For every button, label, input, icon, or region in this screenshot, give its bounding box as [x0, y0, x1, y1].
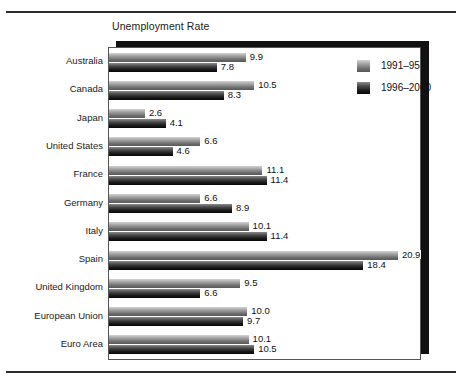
legend-entry-series2: 1996–2000 — [357, 80, 462, 97]
plot-area: 9.97.810.58.32.64.16.64.611.111.46.68.91… — [108, 47, 421, 360]
bar-series-1991-95 — [109, 279, 240, 288]
legend-swatch-1996-2000-icon — [357, 82, 370, 94]
bar-value-label: 4.1 — [169, 118, 184, 127]
category-label: Japan — [77, 113, 103, 123]
bar-series-1996-2000 — [109, 91, 224, 100]
bar-series-1991-95 — [109, 166, 262, 175]
bar-series-1996-2000 — [109, 204, 232, 213]
bar-series-1996-2000 — [109, 289, 200, 298]
category-label: Australia — [66, 56, 103, 66]
bar-series-1996-2000 — [109, 63, 217, 72]
category-label: Euro Area — [61, 339, 103, 349]
category-label: United States — [46, 141, 103, 151]
bar-value-label: 10.1 — [252, 334, 273, 343]
category-label: Canada — [70, 84, 103, 94]
bar-series-1996-2000 — [109, 176, 267, 185]
bar-value-label: 11.4 — [270, 231, 290, 240]
bar-series-1996-2000 — [109, 317, 243, 326]
bar-value-label: 6.6 — [203, 136, 218, 145]
bar-series-1996-2000 — [109, 119, 166, 128]
category-label: European Union — [34, 311, 103, 321]
bar-value-label: 9.9 — [249, 52, 264, 61]
bar-series-1991-95 — [109, 109, 145, 118]
bar-series-1996-2000 — [109, 232, 267, 241]
category-label: Italy — [86, 226, 103, 236]
bar-series-1991-95 — [109, 251, 398, 260]
bar-value-label: 9.5 — [243, 278, 258, 287]
bottom-divider-rule — [6, 371, 456, 373]
legend: 1991–95 1996–2000 — [357, 58, 462, 102]
bar-value-label: 11.1 — [265, 165, 285, 174]
category-axis-labels: AustraliaCanadaJapanUnited StatesFranceG… — [0, 47, 103, 360]
bar-series-1991-95 — [109, 194, 200, 203]
bar-value-label: 8.3 — [227, 90, 242, 99]
bar-series-1991-95 — [109, 307, 247, 316]
bar-value-label: 18.4 — [366, 260, 387, 269]
legend-label-series2: 1996–2000 — [381, 82, 431, 94]
bar-value-label: 20.9 — [401, 250, 422, 259]
bar-series-1996-2000 — [109, 345, 254, 354]
bar-value-label: 4.6 — [176, 146, 191, 155]
unemployment-rate-figure: Unemployment Rate AustraliaCanadaJapanUn… — [0, 0, 462, 382]
bar-value-label: 6.6 — [203, 288, 218, 297]
bar-value-label: 11.4 — [270, 175, 290, 184]
bar-value-label: 9.7 — [246, 316, 261, 325]
bar-value-label: 10.5 — [257, 80, 278, 89]
bar-value-label: 10.0 — [250, 306, 271, 315]
top-divider-rule — [6, 11, 456, 13]
bar-series-1991-95 — [109, 335, 249, 344]
category-label: France — [73, 169, 103, 179]
bar-value-label: 10.1 — [252, 221, 273, 230]
bar-value-label: 8.9 — [235, 203, 250, 212]
bar-value-label: 7.8 — [220, 62, 235, 71]
category-label: Spain — [79, 254, 103, 264]
legend-label-series1: 1991–95 — [381, 60, 420, 72]
bar-series-1996-2000 — [109, 261, 363, 270]
legend-swatch-1991-95-icon — [357, 60, 370, 72]
chart-title: Unemployment Rate — [112, 20, 209, 32]
category-label: United Kingdom — [35, 282, 103, 292]
legend-entry-series1: 1991–95 — [357, 58, 462, 75]
bar-series-1996-2000 — [109, 147, 173, 156]
bar-value-label: 6.6 — [203, 193, 218, 202]
category-label: Germany — [64, 198, 103, 208]
bar-value-label: 2.6 — [148, 108, 163, 117]
bar-series-1991-95 — [109, 222, 249, 231]
bar-value-label: 10.5 — [257, 344, 278, 353]
